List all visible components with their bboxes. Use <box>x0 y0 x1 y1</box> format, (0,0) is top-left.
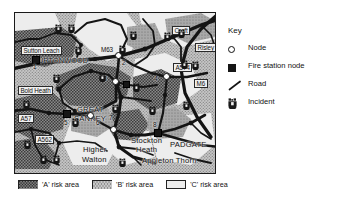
road-label-m63: M63 <box>101 46 113 53</box>
incident-icon <box>164 27 171 36</box>
risk-swatch-b <box>92 180 112 189</box>
place-label-burtonwood: BURTONWOOD <box>33 57 88 64</box>
incident-icon <box>72 113 79 122</box>
key-row-incident: Incident <box>228 98 338 109</box>
incident-icon <box>228 98 248 109</box>
key-row-node: Node <box>228 44 338 55</box>
incident-icon <box>23 95 30 104</box>
node-number-2: 2 <box>122 59 126 66</box>
key-row-fire-station: Fire station node <box>228 62 338 73</box>
incident-icon <box>119 153 126 162</box>
incident-icon <box>149 101 156 110</box>
incident-icon <box>24 135 31 144</box>
road-label-m6: M6 <box>194 79 208 88</box>
fire-station-node-8[interactable] <box>154 129 162 137</box>
square-icon <box>228 62 248 73</box>
incident-icon <box>183 96 190 105</box>
incident-icon <box>55 19 62 28</box>
incident-icon <box>133 78 140 87</box>
place-label-heath: Heath <box>136 146 157 153</box>
node-number-7: 7 <box>109 114 113 121</box>
key-row-road: Road <box>228 80 338 91</box>
key-label-incident: Incident <box>248 98 275 107</box>
fire-station-node-central[interactable] <box>123 81 130 88</box>
node-number-6: 6 <box>96 119 100 126</box>
risk-legend-item-c: 'C' risk area <box>166 180 228 189</box>
road-label-a562: A562 <box>35 135 54 144</box>
key-panel: Key Node Fire station node Road <box>228 26 338 116</box>
key-label-node: Node <box>248 44 266 53</box>
risk-legend-item-b: 'B' risk area <box>92 180 153 189</box>
incident-icon <box>178 24 185 33</box>
key-title: Key <box>228 26 338 35</box>
place-label-stockton: Stockton <box>131 137 162 144</box>
risk-legend-label-a: 'A' risk area <box>42 180 79 189</box>
place-label-walton: Walton <box>82 156 107 163</box>
risk-legend-item-a: 'A' risk area <box>18 180 79 189</box>
incident-icon <box>119 40 126 49</box>
key-label-road: Road <box>248 80 266 89</box>
node-3[interactable] <box>112 78 119 85</box>
incident-icon <box>53 69 60 78</box>
risk-swatch-a <box>18 180 38 189</box>
place-label-higher: Higher <box>83 146 107 153</box>
place-label-risley: Risley <box>195 43 216 52</box>
node-number-8: 8 <box>153 121 157 128</box>
place-label-bold-heath: Bold Heath <box>18 86 53 95</box>
node-circle-icon <box>228 44 248 55</box>
node-number-4: 4 <box>154 75 158 82</box>
risk-legend-label-c: 'C' risk area <box>190 180 228 189</box>
node-4[interactable] <box>163 73 170 80</box>
risk-area-legend: 'A' risk area <box>18 180 233 189</box>
place-label-appleton-thorn: Appleton Thorn <box>142 157 197 164</box>
incident-icon <box>40 150 47 159</box>
node-7[interactable] <box>110 126 117 133</box>
place-label-padgate: PADGATE <box>170 141 207 148</box>
node-6[interactable] <box>87 112 94 119</box>
road-line-icon <box>228 80 248 91</box>
incident-icon <box>53 150 60 159</box>
key-label-fire-station: Fire station node <box>248 62 305 71</box>
risk-swatch-c <box>166 180 186 189</box>
incident-icon <box>112 99 119 108</box>
incident-icon <box>99 68 106 77</box>
figure-root: Sutton Leach BURTONWOOD Croft Risley Bol… <box>0 0 347 208</box>
incident-icon <box>192 56 199 65</box>
risk-legend-label-b: 'B' risk area <box>116 180 153 189</box>
incident-icon <box>130 26 137 35</box>
node-number-1: 1 <box>33 63 37 70</box>
node-number-5: 5 <box>64 119 68 126</box>
incident-icon <box>181 55 188 64</box>
place-label-sutton-leach: Sutton Leach <box>21 46 62 55</box>
road-label-a57: A57 <box>18 114 34 123</box>
map-panel: Sutton Leach BURTONWOOD Croft Risley Bol… <box>14 12 216 174</box>
incident-icon <box>68 19 75 28</box>
incident-icon <box>75 41 82 50</box>
fire-station-node-5[interactable] <box>63 110 71 118</box>
